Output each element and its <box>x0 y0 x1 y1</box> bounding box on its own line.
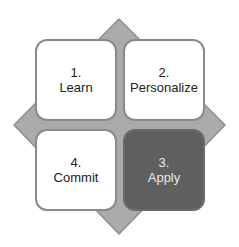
step-number: 1. <box>71 65 82 80</box>
step-label: Personalize <box>130 80 198 95</box>
step-commit: 4. Commit <box>35 129 117 211</box>
step-label: Learn <box>59 80 92 95</box>
step-number: 2. <box>159 65 170 80</box>
step-label: Commit <box>54 170 99 185</box>
step-number: 3. <box>159 155 170 170</box>
step-learn: 1. Learn <box>35 39 117 121</box>
step-apply: 3. Apply <box>123 129 205 211</box>
background-diamond <box>0 0 239 247</box>
step-number: 4. <box>71 155 82 170</box>
step-personalize: 2. Personalize <box>123 39 205 121</box>
step-label: Apply <box>148 170 181 185</box>
